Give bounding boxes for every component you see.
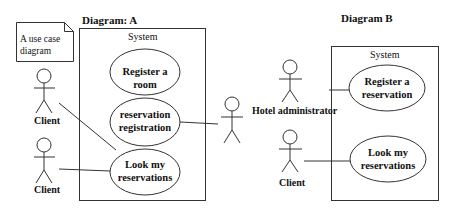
actor-label-client-b: Client xyxy=(279,178,305,188)
diagram-canvas xyxy=(0,0,452,210)
actor-label-client-a2: Client xyxy=(34,185,60,195)
system-boundary-b xyxy=(332,47,439,201)
actor-hotel-administrator xyxy=(279,60,302,102)
association-a1-look xyxy=(59,103,116,150)
note-text: A use case diagram xyxy=(20,34,60,58)
association-a2-look xyxy=(59,169,110,171)
actor-label-client-a1: Client xyxy=(34,116,60,126)
association-a3-registration xyxy=(180,122,218,124)
diagram-a-title: Diagram: A xyxy=(82,15,137,26)
use-case-label-register-room: Register a room xyxy=(110,66,180,91)
use-case-label-look-reservations-b: Look my reservations xyxy=(350,147,426,172)
actor-label-hotel-administrator: Hotel administrator xyxy=(252,106,337,116)
system-label-b: System xyxy=(370,50,399,60)
diagram-b-title: Diagram B xyxy=(341,13,393,24)
actor-client-a2 xyxy=(34,138,55,183)
use-case-label-look-reservations-a: Look my reservations xyxy=(110,159,180,184)
actor-unlabeled-a3 xyxy=(221,97,243,143)
use-case-label-register-reservation: Register a reservation xyxy=(349,76,425,101)
actor-client-a1 xyxy=(34,69,55,113)
system-label-a: System xyxy=(128,32,157,42)
use-case-label-reservation-registration: reservation registration xyxy=(110,109,180,134)
actor-client-b xyxy=(279,130,302,172)
